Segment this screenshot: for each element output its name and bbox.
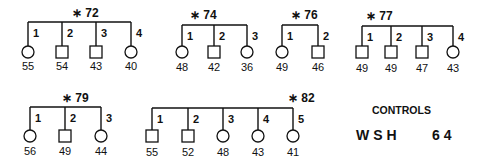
member-1: 156 <box>24 107 41 157</box>
member-2: 254 <box>56 22 73 72</box>
family-82: ∗ 82155252348443541 <box>146 91 315 158</box>
member-index: 1 <box>367 31 373 43</box>
member-value: 52 <box>182 146 194 158</box>
member-value: 49 <box>276 61 288 73</box>
male-square-icon <box>208 46 220 58</box>
family-72: ∗ 72155254343440 <box>22 6 143 72</box>
member-value: 54 <box>56 60 68 72</box>
female-circle-icon <box>241 46 253 58</box>
member-index: 1 <box>287 30 293 42</box>
pedigree-diagram: ∗ 72155254343440∗ 74148242336∗ 76149246∗… <box>0 0 479 165</box>
family-76: ∗ 76149246 <box>276 8 329 73</box>
male-square-icon <box>90 46 102 58</box>
male-square-icon <box>59 130 71 142</box>
member-index: 2 <box>70 112 76 124</box>
member-2: 242 <box>208 25 225 73</box>
male-square-icon <box>312 46 324 58</box>
member-value: 40 <box>125 60 137 72</box>
member-5: 541 <box>287 108 304 158</box>
member-index: 3 <box>427 31 433 43</box>
family-79: ∗ 79156249344 <box>24 91 112 157</box>
female-circle-icon <box>95 130 107 142</box>
member-index: 4 <box>458 31 465 43</box>
female-circle-icon <box>217 130 229 142</box>
member-3: 347 <box>416 26 433 74</box>
member-1: 149 <box>356 26 373 74</box>
member-value: 43 <box>252 146 264 158</box>
member-1: 148 <box>176 25 193 73</box>
family-id-label: ∗ 82 <box>288 91 315 105</box>
member-1: 155 <box>146 108 163 158</box>
member-2: 246 <box>312 25 329 73</box>
member-4: 443 <box>252 108 270 158</box>
member-2: 249 <box>385 26 402 74</box>
member-index: 1 <box>187 30 193 42</box>
member-1: 149 <box>276 25 293 73</box>
member-index: 2 <box>67 27 73 39</box>
member-value: 43 <box>447 62 459 74</box>
member-index: 2 <box>396 31 402 43</box>
member-value: 55 <box>146 146 158 158</box>
male-square-icon <box>56 46 68 58</box>
female-circle-icon <box>125 46 137 58</box>
member-1: 155 <box>22 22 39 72</box>
member-index: 1 <box>157 113 163 125</box>
family-id-label: ∗ 77 <box>366 9 393 23</box>
member-index: 1 <box>35 112 41 124</box>
family-id-label: ∗ 76 <box>291 8 318 22</box>
member-value: 46 <box>312 61 324 73</box>
male-square-icon <box>356 46 368 58</box>
member-2: 249 <box>59 107 76 157</box>
member-value: 36 <box>241 61 253 73</box>
family-id-label: ∗ 72 <box>72 6 99 20</box>
member-index: 3 <box>106 112 112 124</box>
male-square-icon <box>416 46 428 58</box>
member-value: 42 <box>208 61 220 73</box>
member-3: 343 <box>90 22 107 72</box>
female-circle-icon <box>22 46 34 58</box>
member-index: 3 <box>252 30 258 42</box>
member-4: 443 <box>447 26 465 74</box>
male-square-icon <box>182 130 194 142</box>
member-value: 55 <box>22 60 34 72</box>
member-index: 3 <box>101 27 107 39</box>
member-index: 4 <box>136 27 143 39</box>
member-value: 44 <box>95 145 107 157</box>
member-value: 49 <box>59 145 71 157</box>
family-77: ∗ 77149249347443 <box>356 9 465 74</box>
member-2: 252 <box>182 108 199 158</box>
female-circle-icon <box>252 130 264 142</box>
member-value: 43 <box>90 60 102 72</box>
member-3: 336 <box>241 25 258 73</box>
member-index: 2 <box>323 30 329 42</box>
male-square-icon <box>385 46 397 58</box>
female-circle-icon <box>276 46 288 58</box>
member-4: 440 <box>125 22 143 72</box>
member-value: 49 <box>356 62 368 74</box>
member-index: 5 <box>298 113 304 125</box>
female-circle-icon <box>24 130 36 142</box>
male-square-icon <box>146 130 158 142</box>
member-index: 1 <box>33 27 39 39</box>
member-value: 48 <box>217 146 229 158</box>
female-circle-icon <box>447 46 459 58</box>
female-circle-icon <box>287 130 299 142</box>
member-value: 49 <box>385 62 397 74</box>
member-index: 2 <box>219 30 225 42</box>
member-3: 348 <box>217 108 234 158</box>
member-index: 3 <box>228 113 234 125</box>
member-3: 344 <box>95 107 112 157</box>
member-index: 4 <box>263 113 270 125</box>
member-value: 56 <box>24 145 36 157</box>
family-74: ∗ 74148242336 <box>176 8 258 73</box>
family-id-label: ∗ 74 <box>190 8 217 22</box>
female-circle-icon <box>176 46 188 58</box>
member-index: 2 <box>193 113 199 125</box>
family-id-label: ∗ 79 <box>62 91 89 105</box>
member-value: 48 <box>176 61 188 73</box>
member-value: 47 <box>416 62 428 74</box>
member-value: 41 <box>287 146 299 158</box>
